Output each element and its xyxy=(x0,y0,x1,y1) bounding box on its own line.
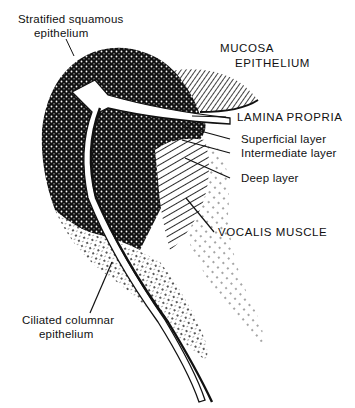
label-mucosa: MUCOSA xyxy=(220,42,274,55)
vocal-fold-diagram: Stratified squamous epithelium MUCOSA EP… xyxy=(0,0,355,408)
label-stratified-epithelium: epithelium xyxy=(34,27,88,40)
label-ciliated-columnar: Ciliated columnar xyxy=(22,314,114,327)
label-lamina-propria: LAMINA PROPRIA xyxy=(237,111,343,124)
label-vocalis-muscle: VOCALIS MUSCLE xyxy=(218,226,327,239)
label-epithelium: EPITHELIUM xyxy=(235,57,310,70)
label-intermediate-layer: Intermediate layer xyxy=(241,147,337,160)
label-stratified-squamous: Stratified squamous xyxy=(18,13,123,26)
leader-stratified xyxy=(66,39,74,56)
label-superficial-layer: Superficial layer xyxy=(241,133,326,146)
label-ciliated-epithelium: epithelium xyxy=(39,328,93,341)
label-deep-layer: Deep layer xyxy=(241,172,299,185)
